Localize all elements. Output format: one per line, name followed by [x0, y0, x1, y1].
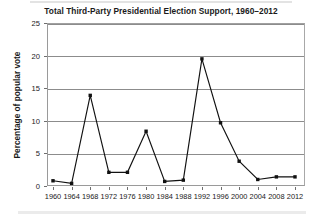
data-point	[275, 175, 278, 178]
scan-artifact-top	[30, 1, 292, 3]
x-tick-mark	[202, 187, 203, 190]
x-tick-mark	[53, 187, 54, 190]
x-tick-mark	[90, 187, 91, 190]
scan-artifact-bottom	[18, 211, 306, 214]
chart-figure: Total Third-Party Presidential Election …	[0, 0, 322, 216]
y-tick-label: 5	[0, 149, 40, 158]
data-point	[256, 178, 259, 181]
data-point	[144, 130, 147, 133]
x-tick-label: 2012	[275, 192, 315, 201]
y-tick-label: 10	[0, 116, 40, 125]
y-tick-mark	[44, 186, 47, 187]
data-point	[126, 171, 129, 174]
y-tick-label: 25	[0, 19, 40, 28]
x-tick-mark	[183, 187, 184, 190]
data-point	[182, 178, 185, 181]
data-point	[200, 57, 203, 60]
series-line	[53, 59, 295, 184]
y-tick-label: 0	[0, 182, 40, 191]
y-tick-label: 15	[0, 84, 40, 93]
x-tick-mark	[146, 187, 147, 190]
x-tick-mark	[127, 187, 128, 190]
x-tick-mark	[72, 187, 73, 190]
x-tick-mark	[165, 187, 166, 190]
x-tick-mark	[276, 187, 277, 190]
x-tick-mark	[239, 187, 240, 190]
data-point	[70, 182, 73, 185]
data-point	[293, 175, 296, 178]
data-series-layer	[47, 23, 305, 186]
data-point	[51, 179, 54, 182]
y-tick-label: 20	[0, 51, 40, 60]
y-axis-label: Percentage of popular vote	[12, 20, 22, 190]
chart-title: Total Third-Party Presidential Election …	[0, 6, 322, 16]
x-tick-mark	[295, 187, 296, 190]
x-tick-mark	[258, 187, 259, 190]
data-point	[107, 171, 110, 174]
data-point	[219, 121, 222, 124]
x-tick-mark	[221, 187, 222, 190]
data-point	[163, 180, 166, 183]
x-tick-mark	[109, 187, 110, 190]
data-point	[237, 160, 240, 163]
series-markers	[51, 57, 296, 185]
data-point	[89, 94, 92, 97]
